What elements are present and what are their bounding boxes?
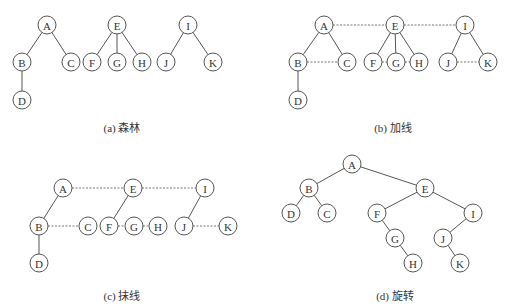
node-label: H [138, 57, 146, 69]
edge-A-B [303, 32, 319, 54]
node-label: I [471, 208, 475, 220]
node-B: B [30, 217, 48, 235]
node-C: C [318, 204, 336, 222]
node-G: G [386, 229, 404, 247]
node-label: C [343, 57, 350, 69]
edge-I-J [450, 219, 466, 232]
node-K: K [219, 217, 237, 235]
node-I: I [464, 204, 482, 222]
node-label: E [392, 20, 399, 32]
node-label: C [84, 221, 91, 233]
edge-A-B [44, 196, 58, 219]
node-D: D [282, 204, 300, 222]
node-label: I [463, 20, 467, 32]
node-label: D [35, 258, 43, 270]
node-label: F [106, 221, 112, 233]
node-label: I [186, 20, 190, 32]
edge-E-H [400, 33, 414, 55]
node-D: D [13, 91, 31, 109]
panel-d-rotate: ABDCEFGHIJK (d) 旋转 [282, 155, 482, 303]
node-B: B [13, 53, 31, 71]
edge-I-J [188, 196, 200, 218]
node-label: B [305, 183, 312, 195]
node-H: H [149, 217, 167, 235]
node-label: J [182, 221, 187, 233]
node-A: A [38, 16, 56, 34]
node-J: J [157, 53, 175, 71]
edge-E-H [122, 32, 137, 54]
node-I: I [179, 16, 197, 34]
node-label: I [203, 183, 207, 195]
node-label: D [287, 208, 295, 220]
node-label: G [392, 57, 400, 69]
caption-a: (a) 森林 [104, 121, 141, 135]
node-F: F [368, 204, 386, 222]
node-C: C [79, 217, 97, 235]
node-label: D [18, 95, 26, 107]
node-J: J [175, 217, 193, 235]
node-K: K [451, 254, 469, 272]
node-label: F [89, 57, 95, 69]
node-label: A [59, 183, 67, 195]
node-F: F [100, 217, 118, 235]
edge-A-B [27, 32, 42, 54]
node-label: B [294, 57, 301, 69]
node-D: D [289, 91, 307, 109]
node-A: A [315, 16, 333, 34]
tree-nodes: ABCDEFGHIJK [13, 16, 222, 109]
node-A: A [343, 155, 361, 173]
node-label: G [113, 57, 121, 69]
node-label: F [370, 57, 376, 69]
caption-b: (b) 加线 [374, 121, 412, 135]
edge-A-C [329, 33, 342, 55]
node-G: G [108, 53, 126, 71]
edge-E-F [97, 32, 112, 54]
node-J: J [439, 53, 457, 71]
node-label: G [391, 233, 399, 245]
node-H: H [133, 53, 151, 71]
node-D: D [30, 254, 48, 272]
node-label: D [294, 95, 302, 107]
node-label: H [154, 221, 162, 233]
node-F: F [83, 53, 101, 71]
node-label: C [323, 208, 330, 220]
edge-J-K [448, 245, 455, 255]
node-label: K [484, 57, 492, 69]
panel-b-add-lines: ABCDEFGHIJK (b) 加线 [289, 16, 497, 135]
tree-nodes: ABCDEFGHIJK [30, 179, 237, 272]
node-label: A [348, 159, 356, 171]
caption-c: (c) 抹线 [104, 289, 141, 303]
node-label: K [456, 258, 464, 270]
edge-F-G [382, 220, 389, 230]
node-H: H [404, 254, 422, 272]
node-label: E [130, 183, 137, 195]
node-I: I [196, 179, 214, 197]
node-G: G [125, 217, 143, 235]
edge-G-H [400, 245, 407, 255]
node-I: I [456, 16, 474, 34]
node-label: E [422, 183, 429, 195]
edge-A-B [317, 168, 344, 183]
edge-I-J [452, 33, 461, 54]
node-E: E [124, 179, 142, 197]
node-B: B [300, 179, 318, 197]
node-label: K [209, 57, 217, 69]
node-G: G [387, 53, 405, 71]
node-label: J [446, 57, 451, 69]
panel-a-forest: ABCDEFGHIJK (a) 森林 [13, 16, 222, 135]
edge-I-K [193, 32, 208, 54]
node-H: H [410, 53, 428, 71]
node-label: C [67, 57, 74, 69]
edge-E-F [385, 192, 417, 209]
node-E: E [416, 179, 434, 197]
caption-d: (d) 旋转 [376, 289, 414, 303]
edge-A-C [52, 33, 66, 55]
edge-E-F [114, 196, 128, 219]
node-K: K [204, 53, 222, 71]
node-label: G [130, 221, 138, 233]
node-label: B [35, 221, 42, 233]
edge-B-C [314, 195, 321, 205]
node-label: H [415, 57, 423, 69]
node-label: J [441, 233, 446, 245]
panel-c-remove-lines: ABCDEFGHIJK (c) 抹线 [30, 179, 237, 303]
